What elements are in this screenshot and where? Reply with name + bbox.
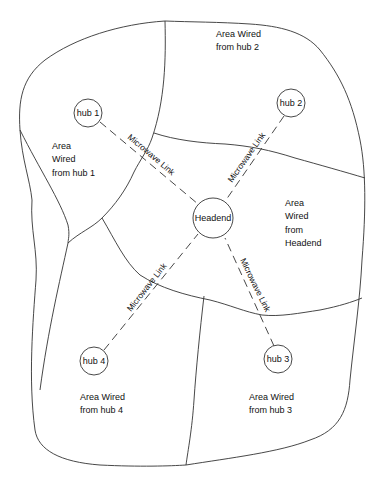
node-label-headend: Headend (195, 213, 232, 223)
area-label-hub1: Area Wired from hub 1 (52, 141, 95, 178)
svg-text:from hub 2: from hub 2 (216, 42, 259, 52)
svg-text:Headend: Headend (285, 238, 322, 248)
area-label-hub2: Area Wired from hub 2 (216, 29, 261, 52)
node-headend: Headend (193, 198, 233, 238)
node-hub2: hub 2 (277, 89, 305, 117)
link-label-hub2: Microwave Link (225, 130, 267, 184)
svg-text:from hub 3: from hub 3 (249, 405, 292, 415)
microwave-link-hub3 (225, 238, 274, 346)
svg-text:Wired: Wired (52, 154, 76, 164)
svg-text:from: from (285, 225, 303, 235)
node-label-hub2: hub 2 (280, 98, 303, 108)
microwave-link-hub2 (226, 116, 284, 200)
svg-text:Area Wired: Area Wired (80, 392, 125, 402)
svg-text:from hub 1: from hub 1 (52, 168, 95, 178)
node-label-hub3: hub 3 (267, 354, 290, 364)
area-label-headend: Area Wired from Headend (285, 198, 322, 248)
node-label-hub4: hub 4 (83, 356, 106, 366)
boundary-hub4-hub3 (186, 296, 204, 465)
svg-text:Area Wired: Area Wired (216, 29, 261, 39)
svg-text:from hub 4: from hub 4 (80, 405, 123, 415)
area-label-hub4: Area Wired from hub 4 (80, 392, 125, 415)
area-label-hub3: Area Wired from hub 3 (249, 392, 294, 415)
microwave-link-hub4 (104, 234, 198, 350)
node-label-hub1: hub 1 (77, 108, 100, 118)
microwave-link-hub1 (100, 122, 198, 204)
svg-text:Wired: Wired (285, 211, 309, 221)
svg-text:Area: Area (285, 198, 304, 208)
node-hub1: hub 1 (74, 99, 102, 127)
boundary-hub1-hub2 (68, 21, 165, 243)
svg-text:Area: Area (52, 141, 71, 151)
cable-network-diagram: Microwave Link Microwave Link Microwave … (0, 0, 383, 483)
svg-text:Area Wired: Area Wired (249, 392, 294, 402)
node-hub4: hub 4 (80, 347, 108, 375)
node-hub3: hub 3 (264, 345, 292, 373)
